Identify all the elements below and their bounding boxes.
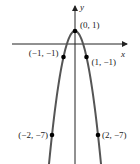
y-axis-label: y xyxy=(79,2,84,12)
data-points: (0, 1)(−1, −1)(1, −1)(−2, −7)(2, −7) xyxy=(18,20,126,140)
point-label: (1, −1) xyxy=(92,57,117,67)
data-point xyxy=(61,55,66,60)
data-point xyxy=(50,133,55,138)
data-point xyxy=(84,55,89,60)
data-point xyxy=(96,133,101,138)
point-label: (−1, −1) xyxy=(29,48,59,58)
parabola-graph: y x (0, 1)(−1, −1)(1, −1)(−2, −7)(2, −7) xyxy=(0,0,140,164)
point-label: (2, −7) xyxy=(102,130,127,140)
x-axis-label: x xyxy=(120,49,125,59)
point-label: (−2, −7) xyxy=(18,130,48,140)
point-label: (0, 1) xyxy=(80,20,100,30)
data-point xyxy=(73,29,78,34)
